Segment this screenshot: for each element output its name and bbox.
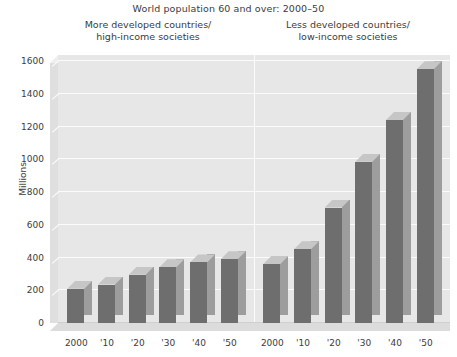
bar [294, 249, 311, 323]
bar-front-face [325, 208, 342, 323]
bar [386, 120, 403, 323]
x-tick-label: '40 [192, 338, 206, 348]
bar-front-face [221, 259, 238, 323]
y-tick-label: 800 [27, 187, 44, 197]
bar-front-face [67, 289, 84, 323]
chart-title: World population 60 and over: 2000–50 [0, 3, 457, 14]
bar-side-face [434, 61, 442, 315]
y-tick-label: 1200 [21, 122, 44, 132]
x-tick-label: '10 [296, 338, 310, 348]
panel-title-more-developed-line2: high-income societies [58, 31, 238, 43]
x-tick-label: '20 [131, 338, 145, 348]
x-tick-label: 2000 [261, 338, 284, 348]
y-tick-label: 1600 [21, 56, 44, 66]
x-tick-label: '40 [388, 338, 402, 348]
bar-side-face [280, 256, 288, 315]
bar-side-face [207, 254, 215, 315]
y-tick-label: 600 [27, 220, 44, 230]
panel-divider [254, 55, 255, 323]
bar [190, 262, 207, 323]
bar-front-face [190, 262, 207, 323]
plot-area: 02004006008001000120014001600 2000'10'20… [50, 55, 450, 331]
bar-front-face [417, 69, 434, 323]
bar [67, 289, 84, 323]
bar [159, 267, 176, 323]
panel-title-more-developed-line1: More developed countries/ [58, 19, 238, 31]
bar-side-face [238, 251, 246, 315]
chart-root: World population 60 and over: 2000–50 Mo… [0, 0, 457, 357]
bar-side-face [372, 154, 380, 315]
y-tick-label: 1400 [21, 89, 44, 99]
bar [355, 162, 372, 323]
bar-side-face [311, 241, 319, 315]
x-tick-label: '30 [161, 338, 175, 348]
bar [417, 69, 434, 323]
bar [325, 208, 342, 323]
bar [129, 275, 146, 323]
panel-title-less-developed: Less developed countries/ low-income soc… [248, 19, 448, 43]
bar-side-face [342, 200, 350, 315]
panel-title-more-developed: More developed countries/ high-income so… [58, 19, 238, 43]
y-tick-label: 400 [27, 253, 44, 263]
bar-front-face [159, 267, 176, 323]
bar [263, 264, 280, 323]
bar [98, 285, 115, 323]
x-tick-label: '20 [327, 338, 341, 348]
x-tick-label: '10 [100, 338, 114, 348]
bar-front-face [386, 120, 403, 323]
x-tick-label: '50 [419, 338, 433, 348]
bar-front-face [129, 275, 146, 323]
plot-floor [50, 323, 450, 331]
y-tick-label: 1000 [21, 154, 44, 164]
x-tick-label: '50 [223, 338, 237, 348]
bar-side-face [146, 267, 154, 315]
bar-front-face [294, 249, 311, 323]
bar-side-face [176, 259, 184, 315]
bar-front-face [98, 285, 115, 323]
y-tick-label: 0 [38, 318, 44, 328]
bar-front-face [263, 264, 280, 323]
x-tick-label: '30 [357, 338, 371, 348]
bar-side-face [403, 112, 411, 315]
y-tick-label: 200 [27, 285, 44, 295]
panel-title-less-developed-line1: Less developed countries/ [248, 19, 448, 31]
bar [221, 259, 238, 323]
bar-front-face [355, 162, 372, 323]
x-tick-label: 2000 [65, 338, 88, 348]
panel-title-less-developed-line2: low-income societies [248, 31, 448, 43]
